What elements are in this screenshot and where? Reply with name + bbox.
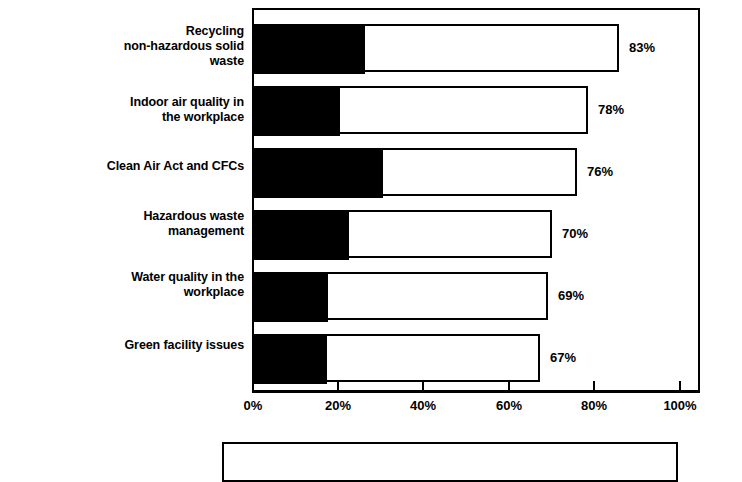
bar-total-3[interactable] [252,210,552,258]
x-axis-tick-40 [422,381,424,390]
x-axis-tick-100 [679,381,681,390]
bar-value-label-1: 78% [598,86,624,134]
bar-filled-3 [254,212,349,260]
x-tick-label-1: 20% [325,398,351,413]
x-axis-tick-60 [508,381,510,390]
bar-value-label-3: 70% [562,210,588,258]
category-label-2: Clean Air Act and CFCs [0,159,244,174]
category-label-5: Green facility issues [0,338,244,353]
bar-filled-2 [254,150,383,198]
category-label-0: Recycling non-hazardous solid waste [0,24,244,69]
x-tick-label-5: 100% [663,398,696,413]
bar-total-0[interactable] [252,24,619,72]
x-axis-tick-20 [337,381,339,390]
x-axis-line [252,390,700,393]
bar-total-2[interactable] [252,148,577,196]
category-label-1: Indoor air quality in the workplace [0,95,244,125]
x-tick-label-2: 40% [410,398,436,413]
bar-filled-4 [254,274,328,322]
category-label-4: Water quality in the workplace [0,270,244,300]
x-tick-label-3: 60% [496,398,522,413]
bar-value-label-0: 83% [629,24,655,72]
bar-filled-5 [254,336,327,384]
bar-value-label-4: 69% [558,272,584,320]
x-axis-tick-0 [252,381,254,390]
category-label-3: Hazardous waste management [0,209,244,239]
x-axis-tick-labels: 0% 20% 40% 60% 80% 100% [252,398,722,418]
x-tick-label-0: 0% [244,398,263,413]
category-axis-labels: Recycling non-hazardous solid waste Indo… [0,8,244,388]
x-axis-tick-80 [593,381,595,390]
legend-box [222,442,678,482]
bar-value-label-5: 67% [550,334,576,382]
bar-filled-0 [254,26,365,74]
bar-total-1[interactable] [252,86,588,134]
bar-total-4[interactable] [252,272,548,320]
bars-layer: 83% 78% 76% 70% 69% [252,8,700,392]
x-tick-label-4: 80% [581,398,607,413]
bar-value-label-2: 76% [587,148,613,196]
bar-filled-1 [254,88,340,136]
bar-total-5[interactable] [252,334,540,382]
